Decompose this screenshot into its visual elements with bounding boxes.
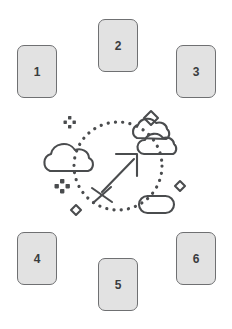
sparkle-top-left-icon bbox=[64, 116, 76, 128]
cloud-right-icon bbox=[133, 119, 176, 154]
card-6-label: 6 bbox=[193, 253, 200, 265]
card-2-label: 2 bbox=[115, 40, 122, 52]
card-1[interactable]: 1 bbox=[17, 45, 57, 98]
card-2[interactable]: 2 bbox=[98, 19, 138, 72]
card-3-label: 3 bbox=[193, 66, 200, 78]
cloud-left-icon bbox=[44, 144, 93, 171]
diamond-right-icon bbox=[175, 181, 185, 191]
card-5[interactable]: 5 bbox=[98, 258, 138, 311]
card-6[interactable]: 6 bbox=[176, 232, 216, 285]
sparkle-bottom-left-icon bbox=[55, 179, 70, 193]
pill-bottom-icon bbox=[139, 196, 174, 213]
card-3[interactable]: 3 bbox=[176, 45, 216, 98]
card-4-label: 4 bbox=[34, 253, 41, 265]
illustration-stage: 1 2 3 4 5 6 bbox=[0, 0, 232, 329]
sagittarius-arrow-illustration bbox=[36, 104, 196, 224]
card-5-label: 5 bbox=[115, 279, 122, 291]
diamond-bottom-left-icon bbox=[71, 205, 81, 215]
sagittarius-arrow-icon bbox=[92, 154, 137, 203]
card-4[interactable]: 4 bbox=[17, 232, 57, 285]
card-1-label: 1 bbox=[34, 66, 41, 78]
